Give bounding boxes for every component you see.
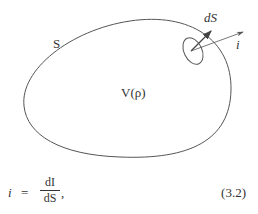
surface-label-s: S [53, 37, 60, 50]
equation-3-2: i = dI dS , (3.2) [8, 176, 248, 212]
volume-label: V(ρ) [121, 86, 146, 99]
fraction-numerator: dI [40, 176, 60, 189]
equals-sign: = [21, 185, 28, 200]
equation-comma: , [61, 185, 64, 201]
diagram-figure: S V(ρ) dS i [0, 0, 258, 170]
fraction-denominator: dS [40, 192, 60, 205]
equation-variable-i: i [8, 185, 12, 200]
equation-number: (3.2) [221, 185, 246, 201]
equation-lhs: i = [8, 185, 28, 201]
fraction: dI dS [40, 176, 60, 205]
ds-label: dS [204, 11, 217, 24]
current-density-label: i [236, 38, 240, 51]
